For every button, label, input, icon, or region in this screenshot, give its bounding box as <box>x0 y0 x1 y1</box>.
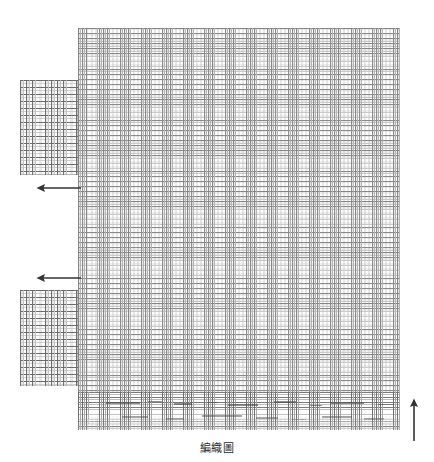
bottom-float-band <box>78 392 400 430</box>
float-mark <box>148 401 162 402</box>
float-mark <box>322 416 352 418</box>
float-mark <box>202 415 242 417</box>
side-block-upper <box>20 80 78 175</box>
figure-caption: 編織圖 <box>0 442 434 456</box>
float-mark <box>330 402 364 404</box>
float-mark <box>106 402 140 404</box>
float-mark <box>228 404 258 406</box>
float-mark <box>208 402 218 403</box>
float-mark <box>166 418 184 420</box>
weaving-diagram-figure: 編織圖 <box>0 0 434 462</box>
float-mark <box>174 403 192 405</box>
side-block-lower <box>20 290 78 386</box>
float-mark <box>364 418 384 420</box>
float-mark <box>274 401 296 403</box>
main-weave-grid <box>78 28 400 430</box>
float-mark <box>256 417 278 419</box>
float-mark <box>378 404 394 405</box>
arrow-up-icon <box>406 398 422 442</box>
float-mark <box>122 416 148 418</box>
float-mark <box>310 405 322 406</box>
float-mark <box>292 419 306 420</box>
arrow-left-icon <box>36 180 82 196</box>
arrow-left-icon <box>36 270 82 286</box>
